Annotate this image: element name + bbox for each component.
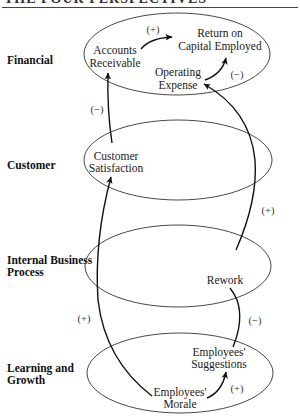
node-label: Accounts: [93, 44, 137, 56]
polarity-sign: (+): [231, 383, 244, 395]
polarity-sign: (+): [78, 313, 91, 325]
node-label: Operating: [155, 66, 201, 79]
polarity-sign: (+): [147, 24, 160, 36]
node-label: Expense: [159, 79, 198, 92]
node-label: Suggestions: [191, 358, 247, 371]
arrow-morale-to-suggestions: [207, 372, 226, 398]
arrow-rework-to-opex: [204, 84, 255, 250]
arrow-opex-to-roce: [205, 58, 226, 80]
node-employees-suggestions: Employees' Suggestions: [191, 346, 247, 371]
node-label: Capital Employed: [178, 40, 262, 53]
node-label: Satisfaction: [89, 162, 144, 174]
node-label: Morale: [163, 398, 196, 410]
internal-process-ellipse: [85, 225, 271, 307]
polarity-sign: (−): [91, 104, 104, 116]
node-label: Rework: [207, 274, 244, 286]
arrow-ar-to-roce: [141, 37, 172, 49]
cause-effect-diagram: Accounts Receivable Return on Capital Em…: [0, 0, 300, 420]
arrow-morale-to-custsat: [97, 177, 152, 396]
node-label: Customer: [94, 150, 139, 162]
node-accounts-receivable: Accounts Receivable: [89, 44, 140, 69]
polarity-sign: (−): [231, 69, 244, 81]
node-label: Receivable: [89, 57, 140, 69]
node-label: Return on: [197, 27, 243, 39]
node-operating-expense: Operating Expense: [155, 66, 201, 92]
polarity-sign: (−): [249, 315, 262, 327]
node-customer-satisfaction: Customer Satisfaction: [89, 150, 144, 174]
node-return-on-capital-employed: Return on Capital Employed: [178, 27, 262, 53]
node-rework: Rework: [207, 274, 244, 286]
node-employees-morale: Employees' Morale: [153, 386, 206, 410]
polarity-sign: (+): [262, 205, 275, 217]
